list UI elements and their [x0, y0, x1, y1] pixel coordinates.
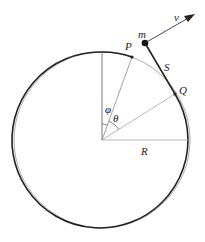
- diagram-canvas: m v P S Q φ θ R: [0, 0, 205, 242]
- label-mass: m: [138, 28, 146, 40]
- label-string-s: S: [164, 61, 170, 73]
- point-q-dot: [173, 92, 176, 95]
- label-radius: R: [140, 145, 148, 157]
- label-angle-theta: θ: [113, 112, 119, 124]
- arc-top-to-p: [102, 52, 132, 57]
- string-segment: [145, 43, 175, 94]
- velocity-arrowhead-icon: [184, 14, 195, 22]
- phi-arc: [102, 124, 108, 125]
- radius-to-p: [102, 57, 132, 140]
- label-point-p: P: [124, 40, 132, 52]
- label-angle-phi: φ: [105, 103, 111, 115]
- velocity-line: [145, 17, 190, 43]
- label-velocity: v: [174, 11, 179, 23]
- point-p-dot: [130, 55, 133, 58]
- label-point-q: Q: [179, 84, 187, 96]
